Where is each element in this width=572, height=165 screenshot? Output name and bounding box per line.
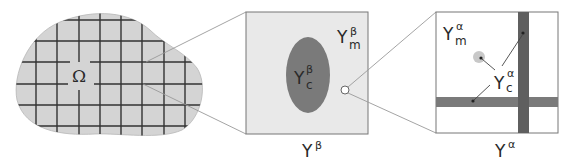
meso-matrix-sup: β <box>350 25 357 38</box>
macro-domain: Ω <box>0 0 210 165</box>
micro-particle-halo <box>473 51 485 63</box>
micro-matrix-sub: m <box>455 34 467 48</box>
meso-inclusion-label: Y <box>293 68 305 88</box>
meso-cell: Y β c Y β m Y β <box>246 12 368 161</box>
micro-horizontal-fiber <box>436 97 558 107</box>
macro-domain-label: Ω <box>72 66 86 86</box>
micro-matrix-sup: α <box>456 20 463 33</box>
micro-inclusion-sub: c <box>506 81 513 95</box>
micro-inclusion-label: Y <box>493 73 505 93</box>
micro-cell-label: Y <box>494 141 506 161</box>
meso-cell-label: Y <box>301 141 313 161</box>
micro-cell-sup: α <box>508 138 515 151</box>
homogenization-diagram: Ω Y β c Y β m Y β <box>0 0 572 165</box>
micro-inclusion-sup: α <box>507 67 514 80</box>
meso-matrix-sub: m <box>349 38 361 52</box>
macro-domain-shape <box>16 14 202 136</box>
meso-inclusion-sup: β <box>306 63 313 76</box>
meso-zoom-point <box>341 86 349 94</box>
meso-cell-sup: β <box>315 139 322 152</box>
meso-matrix-label: Y <box>336 27 348 47</box>
meso-inclusion-sub: c <box>306 78 313 92</box>
micro-matrix-label: Y <box>442 24 454 44</box>
micro-vertical-fiber <box>518 12 529 133</box>
micro-cell: Y α c Y α m Y α <box>436 12 558 161</box>
